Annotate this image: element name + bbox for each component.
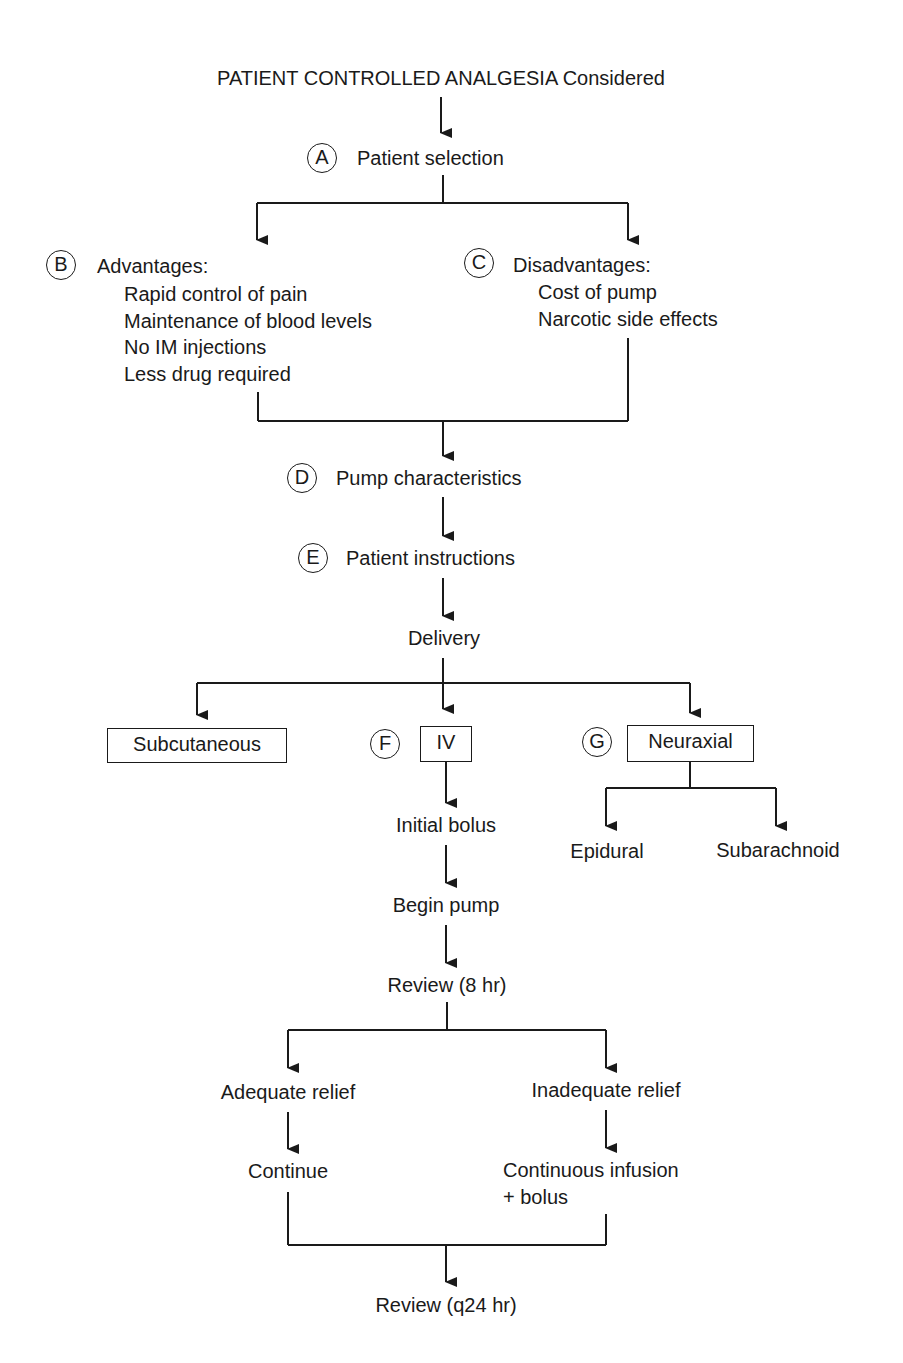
node-subarachnoid: Subarachnoid (716, 838, 839, 862)
marker-g-icon: G (582, 727, 612, 757)
marker-f-icon: F (370, 729, 400, 759)
node-neuraxial: Neuraxial (627, 725, 754, 762)
marker-a-icon: A (307, 143, 337, 173)
advantage-item: Rapid control of pain (124, 281, 372, 308)
node-patient-selection: Patient selection (357, 146, 504, 170)
node-initial-bolus: Initial bolus (396, 813, 496, 837)
marker-e-icon: E (298, 543, 328, 573)
advantage-item: Maintenance of blood levels (124, 308, 372, 335)
disadvantages-list: Cost of pump Narcotic side effects (538, 279, 718, 332)
marker-c-icon: C (464, 248, 494, 278)
advantage-item: Less drug required (124, 361, 372, 388)
advantage-item: No IM injections (124, 334, 372, 361)
diagram-title: PATIENT CONTROLLED ANALGESIA Considered (217, 66, 665, 90)
node-continue: Continue (248, 1159, 328, 1183)
node-epidural: Epidural (570, 839, 643, 863)
node-continuous-infusion: Continuous infusion (503, 1158, 679, 1182)
node-begin-pump: Begin pump (393, 893, 500, 917)
node-inadequate-relief: Inadequate relief (531, 1078, 680, 1102)
node-disadvantages: Disadvantages: (513, 253, 651, 277)
node-plus-bolus: + bolus (503, 1185, 568, 1209)
flowchart-connectors (0, 0, 903, 1363)
node-subcutaneous: Subcutaneous (107, 728, 287, 763)
node-patient-instructions: Patient instructions (346, 546, 515, 570)
disadvantage-item: Cost of pump (538, 279, 718, 306)
node-pump-characteristics: Pump characteristics (336, 466, 522, 490)
marker-d-icon: D (287, 463, 317, 493)
advantages-list: Rapid control of pain Maintenance of blo… (124, 281, 372, 387)
disadvantage-item: Narcotic side effects (538, 306, 718, 333)
marker-b-icon: B (46, 250, 76, 280)
node-delivery: Delivery (408, 626, 480, 650)
node-advantages: Advantages: (97, 254, 208, 278)
node-review-8hr: Review (8 hr) (388, 973, 507, 997)
node-review-q24hr: Review (q24 hr) (375, 1293, 516, 1317)
node-iv: IV (420, 726, 472, 762)
node-adequate-relief: Adequate relief (221, 1080, 356, 1104)
